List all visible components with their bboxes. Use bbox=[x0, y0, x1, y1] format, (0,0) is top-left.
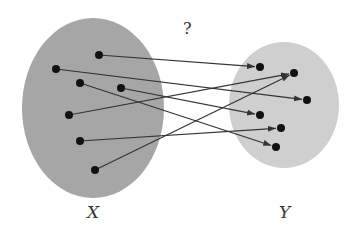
point-x4 bbox=[117, 84, 125, 92]
point-x3 bbox=[76, 79, 84, 87]
point-y6 bbox=[272, 143, 280, 151]
point-y2 bbox=[290, 69, 298, 77]
point-x2 bbox=[52, 65, 60, 73]
point-x7 bbox=[91, 166, 99, 174]
point-x6 bbox=[76, 137, 84, 145]
point-x5 bbox=[65, 111, 73, 119]
point-y4 bbox=[256, 111, 264, 119]
function-mapping-diagram: ? X Y bbox=[0, 0, 356, 230]
set-x-label: X bbox=[85, 202, 100, 222]
point-x1 bbox=[95, 51, 103, 59]
set-y-ellipse bbox=[229, 42, 339, 168]
point-y5 bbox=[277, 124, 285, 132]
question-mark: ? bbox=[183, 19, 192, 38]
set-y-label: Y bbox=[279, 202, 292, 222]
point-y1 bbox=[256, 63, 264, 71]
point-y3 bbox=[303, 96, 311, 104]
